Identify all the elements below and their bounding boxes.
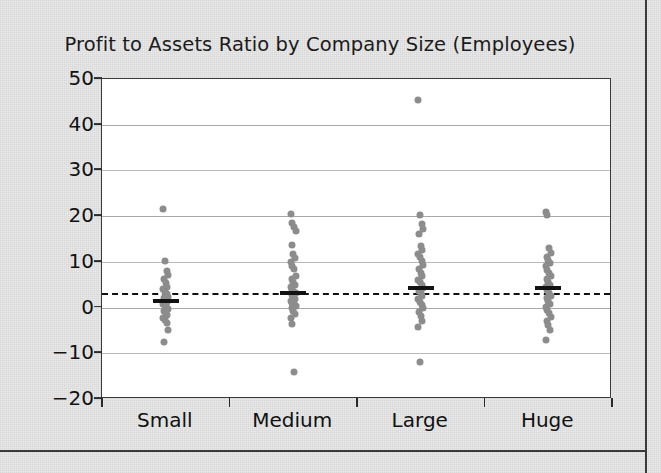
x-category-label-large: Large bbox=[350, 408, 490, 432]
gridline bbox=[102, 125, 610, 126]
data-point bbox=[415, 96, 422, 103]
data-point bbox=[287, 211, 294, 218]
gridline bbox=[102, 262, 610, 263]
y-tick-label: 0 bbox=[34, 295, 94, 319]
data-point bbox=[291, 369, 298, 376]
gridline bbox=[102, 216, 610, 217]
x-category-label-small: Small bbox=[95, 408, 235, 432]
y-tick-label: 40 bbox=[34, 112, 94, 136]
data-point bbox=[160, 206, 167, 213]
y-tick-mark bbox=[94, 260, 102, 262]
y-tick-label: −10 bbox=[34, 340, 94, 364]
data-point bbox=[416, 358, 423, 365]
y-tick-label: 50 bbox=[34, 66, 94, 90]
y-tick-label: 10 bbox=[34, 249, 94, 273]
group-mean-marker bbox=[280, 291, 306, 295]
data-point bbox=[544, 212, 551, 219]
chart-title: Profit to Assets Ratio by Company Size (… bbox=[0, 33, 640, 56]
y-tick-mark bbox=[94, 77, 102, 79]
group-mean-marker bbox=[535, 286, 561, 290]
data-point bbox=[292, 227, 299, 234]
x-category-label-huge: Huge bbox=[477, 408, 617, 432]
data-point bbox=[416, 211, 423, 218]
chart-page: Profit to Assets Ratio by Company Size (… bbox=[0, 0, 661, 473]
y-tick-mark bbox=[94, 123, 102, 125]
group-mean-marker bbox=[408, 286, 434, 290]
y-tick-label: −20 bbox=[34, 386, 94, 410]
y-tick-mark bbox=[94, 169, 102, 171]
data-point bbox=[289, 320, 296, 327]
x-tick-mark bbox=[484, 398, 486, 407]
page-border-right bbox=[645, 0, 647, 473]
group-mean-marker bbox=[153, 299, 179, 303]
y-tick-mark bbox=[94, 214, 102, 216]
y-axis-labels: 50403020100−10−20 bbox=[22, 78, 94, 398]
x-tick-mark bbox=[611, 398, 613, 407]
data-point bbox=[542, 337, 549, 344]
page-border-bottom bbox=[0, 450, 647, 452]
data-point bbox=[288, 241, 295, 248]
gridline bbox=[102, 170, 610, 171]
y-tick-mark bbox=[94, 306, 102, 308]
x-category-label-medium: Medium bbox=[222, 408, 362, 432]
x-tick-mark bbox=[229, 398, 231, 407]
grand-mean-line bbox=[102, 293, 610, 295]
y-tick-mark bbox=[94, 351, 102, 353]
data-point bbox=[161, 257, 168, 264]
data-point bbox=[165, 326, 172, 333]
data-point bbox=[416, 231, 423, 238]
data-point bbox=[161, 338, 168, 345]
plot-area bbox=[101, 78, 611, 398]
gridline bbox=[102, 308, 610, 309]
data-point bbox=[415, 323, 422, 330]
x-tick-mark bbox=[356, 398, 358, 407]
data-point bbox=[546, 327, 553, 334]
x-tick-mark bbox=[101, 398, 103, 407]
gridline bbox=[102, 353, 610, 354]
y-tick-label: 30 bbox=[34, 157, 94, 181]
y-tick-label: 20 bbox=[34, 203, 94, 227]
